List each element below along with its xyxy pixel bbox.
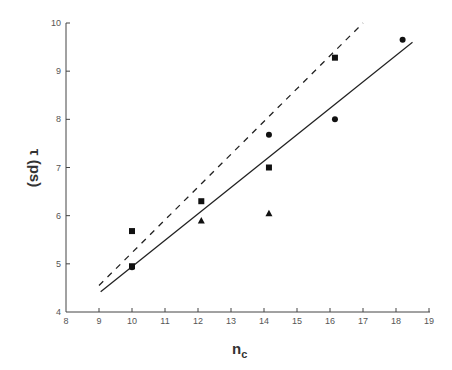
square-marker (266, 165, 272, 171)
square-marker (332, 55, 338, 61)
y-tick-label: 7 (56, 163, 61, 173)
x-tick-label: 10 (127, 316, 137, 326)
dashed-fit-line (99, 23, 363, 286)
x-axis-title: nc (232, 340, 247, 360)
circle-marker (400, 37, 406, 43)
circle-marker (129, 264, 135, 270)
x-tick-label: 9 (96, 316, 101, 326)
y-tick-label: 4 (56, 307, 61, 317)
x-tick-label: 13 (226, 316, 236, 326)
x-ticks: 8910111213141516171819 (63, 308, 434, 326)
square-marker (129, 228, 135, 234)
x-tick-label: 15 (292, 316, 302, 326)
circle-marker (266, 132, 272, 138)
fit-lines (99, 23, 413, 292)
y-tick-label: 8 (56, 114, 61, 124)
circle-marker (332, 116, 338, 122)
y-tick-label: 9 (56, 66, 61, 76)
x-tick-label: 8 (63, 316, 68, 326)
x-tick-label: 14 (259, 316, 269, 326)
y-ticks: 45678910 (51, 18, 70, 317)
y-axis-title: τ (ps) (27, 149, 44, 187)
triangle-marker (265, 210, 272, 217)
y-tick-label: 6 (56, 211, 61, 221)
y-tick-label: 5 (56, 259, 61, 269)
x-tick-label: 11 (160, 316, 169, 326)
x-tick-label: 17 (358, 316, 368, 326)
x-tick-label: 16 (325, 316, 335, 326)
x-tick-label: 18 (391, 316, 401, 326)
y-tick-label: 10 (51, 18, 61, 28)
x-tick-label: 12 (193, 316, 203, 326)
x-tick-label: 19 (424, 316, 434, 326)
triangle-marker (198, 217, 205, 224)
solid-fit-line (101, 42, 413, 292)
scatter-chart: 8910111213141516171819 45678910 nc τ (ps… (0, 0, 452, 370)
square-marker (198, 198, 204, 204)
axes (66, 23, 430, 312)
